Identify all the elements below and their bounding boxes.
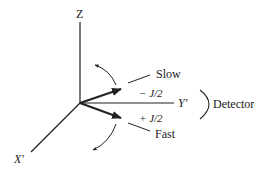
fast-leader-line xyxy=(128,123,150,131)
detector-arc xyxy=(200,90,209,119)
precession-diagram: Z X′ Y′ Slow − J/2 + J/2 Fast Detector xyxy=(0,0,270,171)
lower-spin-vector xyxy=(80,103,121,118)
detector-label: Detector xyxy=(213,97,254,111)
slow-label: Slow xyxy=(156,67,181,81)
upper-precession-arrow xyxy=(95,65,116,85)
x-axis xyxy=(31,103,80,152)
lower-energy-label: + J/2 xyxy=(139,112,163,124)
upper-energy-label: − J/2 xyxy=(139,87,163,99)
lower-precession-arrow xyxy=(93,124,116,150)
x-axis-label: X′ xyxy=(13,152,24,166)
z-axis-label: Z xyxy=(76,7,83,21)
slow-leader-line xyxy=(128,75,150,83)
upper-spin-vector xyxy=(80,89,121,103)
fast-label: Fast xyxy=(155,127,176,141)
y-axis-label: Y′ xyxy=(178,96,188,110)
